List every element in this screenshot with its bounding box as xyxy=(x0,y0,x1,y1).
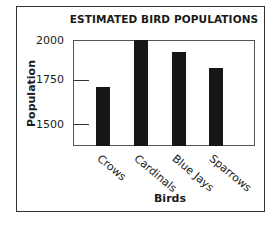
chart-title: ESTIMATED BIRD POPULATIONS xyxy=(66,13,262,25)
y-tick-2000: 2000 xyxy=(24,35,64,47)
bar-sparrows xyxy=(209,68,223,146)
bar-crows xyxy=(96,87,110,146)
bar-blue-jays xyxy=(172,52,186,146)
bar-cardinals xyxy=(134,40,148,146)
y-tick-1750: 1750 xyxy=(24,74,64,86)
x-axis-label: Birds xyxy=(140,192,200,205)
y-tick-1500: 1500 xyxy=(24,119,64,131)
